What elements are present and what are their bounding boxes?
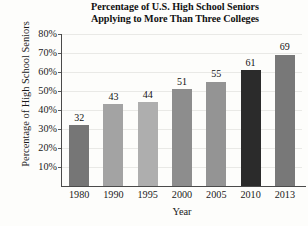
bar-item[interactable]: 51 — [172, 34, 192, 186]
x-tick-label: 2000 — [165, 190, 199, 200]
y-tick-label: 80% — [38, 29, 57, 39]
bar-item[interactable]: 43 — [103, 34, 123, 186]
x-tick-label: 2013 — [268, 190, 302, 200]
y-tick-label: 50% — [38, 86, 57, 96]
plot-area: 10%20%30%40%50%60%70%80% 32434451556169 — [62, 34, 302, 186]
x-axis-ticks: 1980199019952000200520102013 — [62, 190, 302, 204]
bar-value-label: 43 — [103, 92, 123, 102]
bar-rect[interactable] — [241, 70, 261, 186]
bar-item[interactable]: 32 — [69, 34, 89, 186]
bar-item[interactable]: 44 — [138, 34, 158, 186]
bar-item[interactable]: 61 — [241, 34, 261, 186]
x-tick-label: 1980 — [62, 190, 96, 200]
bar-rect[interactable] — [138, 102, 158, 186]
bar-value-label: 51 — [172, 77, 192, 87]
x-axis-line — [61, 186, 306, 187]
plot-inner: 10%20%30%40%50%60%70%80% 32434451556169 — [62, 34, 302, 186]
bar-value-label: 32 — [69, 113, 89, 123]
x-tick-label: 1995 — [131, 190, 165, 200]
bar-rect[interactable] — [206, 82, 226, 187]
bar-item[interactable]: 55 — [206, 34, 226, 186]
bar-value-label: 44 — [138, 90, 158, 100]
bar-rect[interactable] — [103, 104, 123, 186]
y-axis-line — [61, 34, 62, 187]
x-axis-title: Year — [62, 206, 302, 217]
y-axis-title: Percentage of High School Seniors — [15, 9, 31, 179]
bar-rect[interactable] — [172, 89, 192, 186]
bar-rect[interactable] — [69, 125, 89, 186]
y-tick-label: 10% — [38, 162, 57, 172]
bar-rect[interactable] — [275, 55, 295, 186]
y-tick-label: 60% — [38, 67, 57, 77]
chart-title-line-2: Applying to More Than Three Colleges — [46, 13, 304, 25]
y-tick-label: 70% — [38, 48, 57, 58]
y-tick-label: 30% — [38, 124, 57, 134]
bar-value-label: 61 — [241, 58, 261, 68]
x-tick-label: 1990 — [96, 190, 130, 200]
bar-value-label: 69 — [275, 42, 295, 52]
y-axis-title-text: Percentage of High School Seniors — [20, 21, 31, 166]
bar-chart: Percentage of U.S. High School Seniors A… — [0, 0, 308, 226]
y-tick-label: 20% — [38, 143, 57, 153]
bars-group: 32434451556169 — [62, 34, 302, 186]
chart-title: Percentage of U.S. High School Seniors A… — [46, 1, 304, 25]
y-tick-label: 40% — [38, 105, 57, 115]
chart-title-line-1: Percentage of U.S. High School Seniors — [46, 1, 304, 13]
bar-value-label: 55 — [206, 69, 226, 79]
x-tick-label: 2010 — [233, 190, 267, 200]
x-tick-label: 2005 — [199, 190, 233, 200]
bar-item[interactable]: 69 — [275, 34, 295, 186]
